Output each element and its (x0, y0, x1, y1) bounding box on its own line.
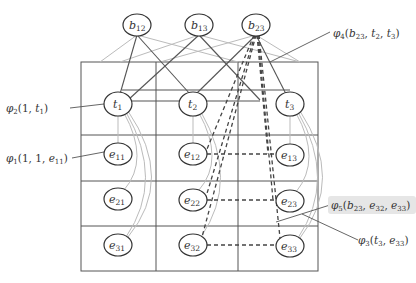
node-e22: e22 (179, 189, 207, 211)
factor-graph-diagram: b12 b13 b23 t1 t2 t3 e11 e12 e13 e21 e22… (0, 0, 416, 283)
node-e12: e12 (179, 143, 207, 165)
node-e32: e32 (179, 234, 207, 256)
node-b13: b13 (185, 14, 213, 36)
column-edges (118, 111, 323, 238)
factor-label-phi1: φ1(1, 1, e11) (6, 152, 68, 166)
node-t1: t1 (104, 92, 132, 116)
factor-label-phi3: φ3(t3, e33) (358, 234, 409, 248)
node-b12: b12 (123, 14, 151, 36)
node-e31: e31 (104, 234, 132, 256)
node-t2: t2 (179, 92, 207, 116)
node-e13: e13 (276, 144, 304, 166)
node-e21: e21 (104, 188, 132, 210)
node-e11: e11 (104, 143, 132, 165)
factor-label-phi4: φ4(b23, t2, t3) (333, 27, 399, 41)
node-t3: t3 (276, 92, 304, 116)
node-b23: b23 (242, 14, 270, 36)
node-e33: e33 (276, 235, 304, 257)
factor-label-phi2: φ2(1, t1) (6, 102, 48, 116)
node-e23: e23 (276, 190, 304, 212)
